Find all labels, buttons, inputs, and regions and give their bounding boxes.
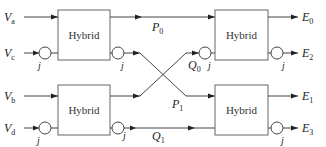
output-e0: E0 [268,10,313,26]
input-va: Va [4,10,58,26]
arrow-icon [291,15,298,20]
label-p1: P1 [171,97,183,113]
label-e0: E0 [301,10,313,26]
label-q1: Q1 [152,129,165,145]
label-vd: Vd [4,121,15,137]
arrow-icon [51,94,58,99]
phase-shift-circle-icon [271,47,283,59]
signal-p1: P1 [171,94,215,114]
arrow-icon [33,51,39,56]
arrow-icon [291,126,298,131]
arrow-icon [135,15,142,20]
signal-q1: j Q1 [110,122,215,145]
output-e1: E1 [268,89,313,105]
label-e3: E3 [301,121,313,137]
arrow-icon [133,94,140,99]
label-j: j [279,135,284,146]
arrow-icon [133,51,140,56]
label-j: j [36,60,41,71]
hybrid-block-bottom-left: Hybrid [58,85,110,135]
output-e2: j E2 [268,46,313,71]
signal-p0: P0 [110,15,215,37]
label-vc: Vc [4,46,15,62]
label-j: j [35,135,40,146]
hybrid-label: Hybrid [68,29,100,41]
label-p0: P0 [151,20,163,36]
hybrid-label: Hybrid [226,29,258,41]
hybrid-label: Hybrid [68,104,100,116]
phase-shift-circle-icon [271,122,283,134]
label-j: j [119,60,124,71]
output-e3: j E3 [268,121,313,146]
label-va: Va [4,10,15,26]
label-q0: Q0 [188,58,201,74]
signal-q0: Q0 j [186,47,215,74]
input-vc: Vc j [4,46,58,71]
hybrid-label: Hybrid [226,104,258,116]
phase-shift-circle-icon [112,47,124,59]
arrow-icon [188,126,195,131]
arrow-icon [33,126,39,131]
hybrid-block-top-right: Hybrid [215,10,268,60]
hybrid-block-top-left: Hybrid [58,10,110,60]
label-j: j [280,60,285,71]
hybrid-block-bottom-right: Hybrid [215,85,268,135]
label-e2: E2 [301,46,313,62]
hybrid-network-diagram: Hybrid Va Vc j P0 j Hybrid Vb [0,0,326,147]
phase-shift-circle-icon [199,47,211,59]
arrow-icon [192,51,199,56]
arrow-icon [291,94,298,99]
phase-shift-circle-icon [39,122,51,134]
input-vd: Vd j [4,121,58,146]
input-vb: Vb [4,89,58,105]
arrow-icon [130,126,136,131]
label-j: j [206,60,211,71]
arrow-icon [51,15,58,20]
arrow-icon [208,94,215,99]
phase-shift-circle-icon [39,47,51,59]
label-vb: Vb [4,89,15,105]
label-e1: E1 [301,89,313,105]
arrow-icon [208,15,215,20]
arrow-icon [291,51,298,56]
